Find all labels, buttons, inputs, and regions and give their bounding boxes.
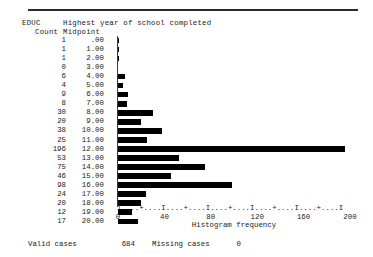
row-count: 196 — [22, 145, 66, 154]
row-midpoint: 13.00 — [66, 154, 104, 163]
row-count: 25 — [22, 136, 66, 145]
row-count: 53 — [22, 154, 66, 163]
row-bar — [118, 83, 123, 89]
top-divider — [28, 9, 358, 11]
row-bar — [118, 119, 141, 125]
row-midpoint: 1.00 — [66, 45, 104, 54]
row-bar — [118, 164, 205, 170]
axis-title: Histogram frequency — [118, 221, 350, 229]
page-title: Highest year of school completed — [63, 19, 211, 27]
row-bar — [118, 47, 119, 53]
row-midpoint: .00 — [66, 36, 104, 45]
row-count: 30 — [22, 108, 66, 117]
row-count: 38 — [22, 126, 66, 135]
row-bar — [118, 92, 128, 98]
row-count: 75 — [22, 163, 66, 172]
row-midpoint: 7.00 — [66, 99, 104, 108]
row-count: 0 — [22, 63, 66, 72]
row-count: 1 — [22, 45, 66, 54]
row-midpoint: 5.00 — [66, 81, 104, 90]
row-midpoint: 4.00 — [66, 72, 104, 81]
row-count: 6 — [22, 72, 66, 81]
row-bar — [118, 137, 147, 143]
row-midpoint: 10.00 — [66, 126, 104, 135]
axis-ascii-ruler: I....+....I....+....I....+....I....+....… — [117, 204, 343, 212]
row-midpoint: 18.00 — [66, 199, 104, 208]
row-count: 46 — [22, 172, 66, 181]
row-bar — [118, 191, 146, 197]
row-midpoint: 14.00 — [66, 163, 104, 172]
row-midpoint: 8.00 — [66, 108, 104, 117]
row-midpoint: 12.00 — [66, 145, 104, 154]
row-count: 8 — [22, 99, 66, 108]
row-bar — [118, 38, 119, 44]
column-header-midpoint: Midpoint — [63, 28, 100, 36]
row-count: 1 — [22, 36, 66, 45]
row-count: 24 — [22, 190, 66, 199]
row-midpoint: 15.00 — [66, 172, 104, 181]
row-midpoint: 16.00 — [66, 181, 104, 190]
row-count: 1 — [22, 54, 66, 63]
row-bar — [118, 101, 127, 107]
column-header-count: Count — [35, 28, 58, 36]
histogram-output-page: EDUC Highest year of school completed Co… — [0, 0, 373, 257]
row-bar — [118, 74, 125, 80]
row-midpoint: 2.00 — [66, 54, 104, 63]
row-bar — [118, 182, 232, 188]
row-midpoint: 17.00 — [66, 190, 104, 199]
row-bar — [118, 155, 179, 161]
missing-cases-value: 0 — [227, 240, 241, 248]
row-count: 98 — [22, 181, 66, 190]
row-bar — [118, 110, 153, 116]
row-count: 4 — [22, 81, 66, 90]
row-midpoint: 3.00 — [66, 63, 104, 72]
row-count: 20 — [22, 117, 66, 126]
row-bar — [118, 146, 345, 152]
missing-cases-label: Missing cases — [152, 240, 210, 248]
row-midpoint: 9.00 — [66, 117, 104, 126]
row-count: 20 — [22, 199, 66, 208]
row-midpoint: 11.00 — [66, 136, 104, 145]
row-count: 9 — [22, 90, 66, 99]
valid-cases-value: 684 — [109, 240, 135, 248]
row-bar — [118, 56, 119, 62]
variable-name: EDUC — [22, 19, 41, 27]
row-midpoint: 6.00 — [66, 90, 104, 99]
row-bar — [118, 128, 162, 134]
row-bar — [118, 173, 171, 179]
valid-cases-label: Valid cases — [28, 240, 77, 248]
